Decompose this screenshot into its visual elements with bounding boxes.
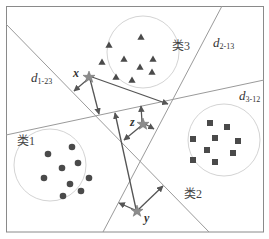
class1-label: 类1 xyxy=(17,135,35,147)
class2-square-icon xyxy=(204,147,210,153)
class1-dot-icon xyxy=(59,165,66,172)
class1-dot-icon xyxy=(45,151,52,158)
class2-label: 类2 xyxy=(184,188,202,200)
class2-square-icon xyxy=(224,124,230,130)
class1-dot-icon xyxy=(60,193,67,200)
boundary-label-d1-23: d1-23 xyxy=(31,71,52,86)
point-x-label: x xyxy=(73,67,79,79)
class1-dot-icon xyxy=(67,181,74,188)
d3-subscript: 3-12 xyxy=(246,95,261,104)
class2-square-icon xyxy=(212,135,218,141)
class2-square-icon xyxy=(190,136,196,142)
class1-dot-icon xyxy=(78,188,85,195)
class2-square-icon xyxy=(230,150,236,156)
d2-subscript: 2-13 xyxy=(220,42,235,51)
point-z-label: z xyxy=(130,116,135,128)
class1-dot-icon xyxy=(86,175,93,182)
class2-square-icon xyxy=(212,159,218,165)
class1-dot-icon xyxy=(69,144,76,151)
point-y-label: y xyxy=(144,212,149,224)
d1-subscript: 1-23 xyxy=(38,77,53,86)
class2-square-icon xyxy=(190,157,196,163)
class1-dot-icon xyxy=(75,160,82,167)
class3-label: 类3 xyxy=(172,40,190,52)
class2-square-icon xyxy=(235,138,241,144)
boundary-label-d3-12: d3-12 xyxy=(239,89,260,104)
boundary-label-d2-13: d2-13 xyxy=(213,36,234,51)
class2-square-icon xyxy=(207,120,213,126)
class1-dot-icon xyxy=(41,175,48,182)
